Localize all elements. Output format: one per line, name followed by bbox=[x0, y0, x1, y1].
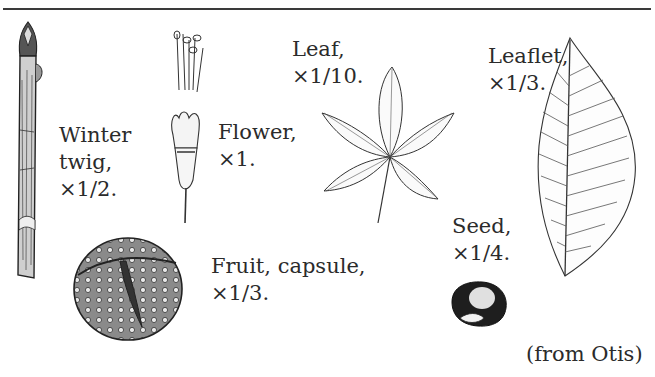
flower-scale: ×1. bbox=[218, 147, 297, 171]
source-credit: (from Otis) bbox=[526, 342, 643, 366]
fruit-capsule-label: Fruit, capsule, ×1/3. bbox=[211, 254, 366, 305]
flower-label-line1: Flower, bbox=[218, 120, 297, 144]
seed-label: Seed, ×1/4. bbox=[452, 214, 511, 265]
winter-twig-scale: ×1/2. bbox=[59, 177, 131, 201]
leaf-label-line1: Leaf, bbox=[292, 37, 363, 61]
seed-scale: ×1/4. bbox=[452, 241, 511, 265]
flower-label: Flower, ×1. bbox=[218, 120, 297, 171]
flower-illustration bbox=[163, 30, 213, 225]
fruit-capsule-scale: ×1/3. bbox=[211, 281, 366, 305]
leaflet-label: Leaflet, ×1/3. bbox=[488, 44, 568, 95]
leaflet-label-line1: Leaflet, bbox=[488, 44, 568, 68]
winter-twig-illustration bbox=[8, 20, 48, 282]
winter-twig-label-line2: twig, bbox=[59, 150, 131, 174]
seed-illustration bbox=[448, 280, 510, 328]
winter-twig-label: Winter twig, ×1/2. bbox=[59, 123, 131, 201]
leaf-scale: ×1/10. bbox=[292, 64, 363, 88]
top-rule bbox=[3, 8, 651, 10]
seed-label-line1: Seed, bbox=[452, 214, 511, 238]
compound-leaf-illustration bbox=[320, 65, 460, 225]
fruit-capsule-illustration bbox=[72, 235, 184, 343]
leaflet-scale: ×1/3. bbox=[488, 71, 568, 95]
winter-twig-label-line1: Winter bbox=[59, 123, 131, 147]
fruit-capsule-label-line1: Fruit, capsule, bbox=[211, 254, 366, 278]
leaf-label: Leaf, ×1/10. bbox=[292, 37, 363, 88]
